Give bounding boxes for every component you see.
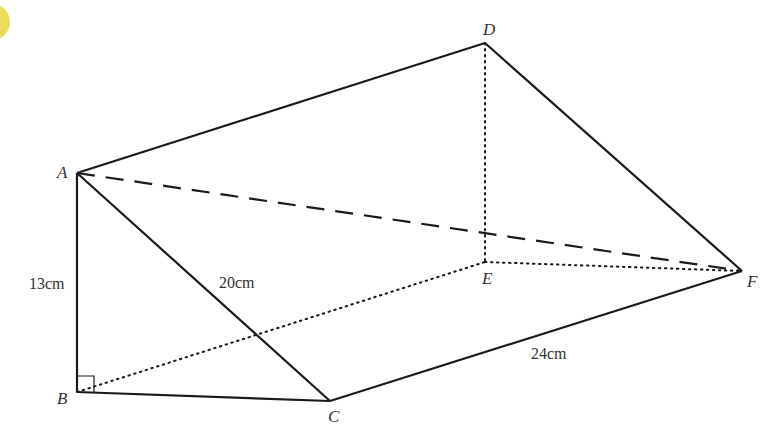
edge-DF [485,43,742,271]
measure-AC: 20cm [219,274,255,291]
edge-EF [485,262,742,271]
vertex-label-D: D [482,20,496,39]
vertex-label-B: B [57,389,68,408]
vertex-label-A: A [56,163,68,182]
measure-AB: 13cm [29,275,65,292]
right-angle-marker-icon [77,376,94,392]
edge-AF-dashed [77,173,742,271]
hidden-edges [77,43,742,392]
vertex-label-E: E [481,269,493,288]
edge-CF [330,271,742,401]
prism-diagram-canvas: A B C D E F 13cm 20cm 24cm [0,0,781,440]
vertex-label-F: F [746,272,758,291]
edge-AD [77,43,485,173]
edge-BC [77,392,330,401]
triangular-prism-figure: A B C D E F 13cm 20cm 24cm [0,0,781,440]
vertex-label-C: C [328,407,340,426]
yellow-badge-icon [0,4,10,40]
measure-CF: 24cm [531,345,567,362]
edge-AC [77,173,330,401]
